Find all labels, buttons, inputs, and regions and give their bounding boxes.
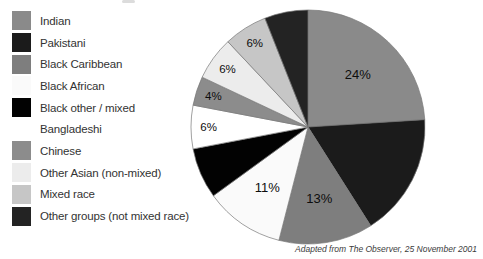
pie-slice-value-label: 6% bbox=[219, 63, 236, 75]
pie-slice-value-label: 11% bbox=[255, 180, 280, 195]
pie-slice-value-label: 13% bbox=[306, 191, 332, 206]
pie-chart-figure: IndianPakistaniBlack CaribbeanBlack Afri… bbox=[0, 0, 483, 259]
pie-slice-value-label: 6% bbox=[246, 37, 263, 49]
pie-slice-value-label: 24% bbox=[345, 67, 371, 82]
source-attribution: Adapted from The Observer, 25 November 2… bbox=[295, 244, 477, 254]
pie-chart: 24%13%11%6%4%6%6% bbox=[0, 0, 483, 259]
pie-slice-value-label: 4% bbox=[205, 90, 222, 102]
pie-slice-value-label: 6% bbox=[200, 121, 217, 133]
